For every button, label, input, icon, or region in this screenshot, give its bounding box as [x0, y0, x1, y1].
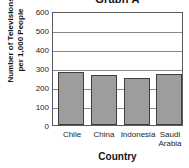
y-tick-label-500: 500 — [23, 28, 49, 36]
bar-series — [52, 12, 183, 126]
x-axis-title: Country — [52, 151, 183, 162]
y-axis-title-line-1: Number of Televisions — [6, 0, 16, 92]
y-tick-label-0: 0 — [23, 123, 49, 131]
y-tick-label-200: 200 — [23, 85, 49, 93]
x-tick-china-line-1: China — [94, 130, 115, 139]
y-tick-label-300: 300 — [23, 66, 49, 74]
chart-title: Graph A — [52, 0, 183, 3]
x-tick-labels: Chile China Indonesia Saudi Arabia — [52, 130, 183, 152]
x-tick-label-indonesia: Indonesia — [118, 130, 158, 139]
bar-saudi-arabia — [156, 74, 182, 125]
bar-chile — [58, 72, 84, 125]
bar-chart-figure: Graph A Number of Televisions per 1,000 … — [0, 0, 189, 168]
bar-indonesia — [124, 78, 150, 125]
y-tick-label-400: 400 — [23, 47, 49, 55]
x-tick-chile-line-1: Chile — [63, 130, 81, 139]
bar-china — [91, 75, 117, 125]
x-tick-saudi-line-1: Saudi — [160, 130, 180, 139]
x-tick-indonesia-line-1: Indonesia — [121, 130, 156, 139]
x-tick-label-saudi-arabia: Saudi Arabia — [156, 130, 184, 148]
y-tick-label-100: 100 — [23, 104, 49, 112]
x-tick-saudi-line-2: Arabia — [156, 139, 184, 148]
y-tick-label-600: 600 — [23, 9, 49, 17]
